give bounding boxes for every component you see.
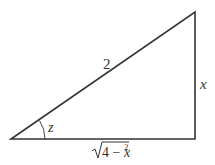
right-triangle xyxy=(11,12,195,139)
angle-arc xyxy=(40,121,46,140)
triangle-svg: 2 x z 4 − x 2 xyxy=(0,0,215,165)
base-exponent: 2 xyxy=(124,142,129,152)
hypotenuse-label: 2 xyxy=(103,56,111,72)
triangle-diagram: 2 x z 4 − x 2 xyxy=(0,0,215,165)
vertical-side-label: x xyxy=(199,76,207,92)
angle-label: z xyxy=(47,120,54,135)
